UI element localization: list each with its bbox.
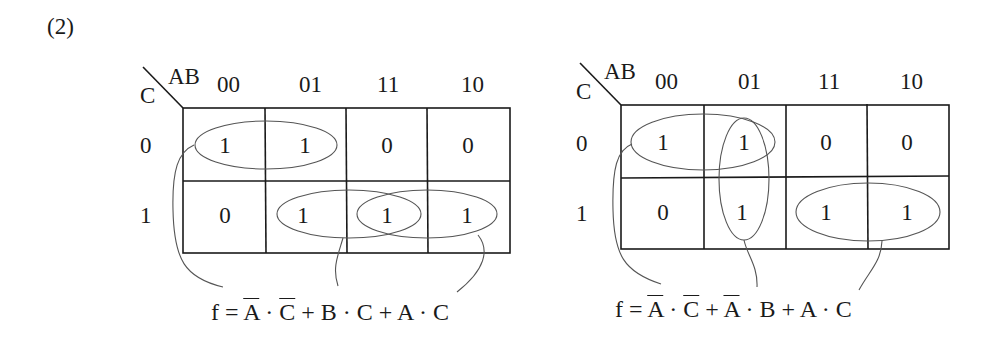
cell-c1-ab01: 1 [736,201,748,224]
term-var-a: A [800,296,816,322]
col-label-10: 10 [900,70,923,93]
leader-line-2 [744,240,757,287]
row-variable-label: C [576,80,591,103]
term-var-cbar: C [683,296,699,322]
and-dot: · [663,296,683,322]
col-label-00: 00 [655,70,678,93]
and-dot: · [739,296,759,322]
term-var-abar: A [723,296,739,322]
col-label-01: 01 [738,70,761,93]
formula-right: f = A · C + A · B + A · C [615,297,852,321]
row-label-1: 1 [576,202,588,225]
term-var-b: B [759,296,775,322]
plus: + [776,296,800,322]
leader-line-1 [613,144,661,284]
cell-c1-ab11: 1 [820,201,832,224]
cell-c1-ab00: 0 [657,201,669,224]
cell-c0-ab11: 0 [820,131,832,154]
cell-c0-ab00: 1 [657,131,669,154]
term-var-c: C [836,296,852,322]
and-dot: · [816,296,836,322]
column-variable-label: AB [604,60,636,83]
cell-c1-ab10: 1 [901,201,913,224]
cell-c0-ab01: 1 [738,131,750,154]
formula-lhs: f = [615,296,643,322]
row-label-0: 0 [576,132,588,155]
term-var-abar: A [647,296,663,322]
cell-c0-ab10: 0 [901,131,913,154]
kmap-right-lines [0,0,997,344]
col-label-11: 11 [818,70,840,93]
plus: + [699,296,723,322]
